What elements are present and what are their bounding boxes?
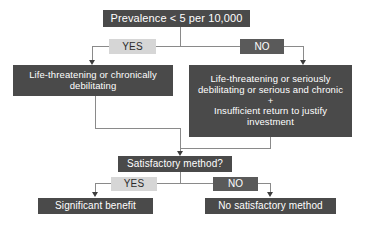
label-yes-bottom-text: YES [124,178,144,190]
connector-root-stem [180,27,181,46]
node-prevalence-label: Prevalence < 5 per 10,000 [111,12,243,25]
connector-right-criteria-drop [270,137,271,149]
node-right-criteria-line-2: debilitating or serious and chronic [198,85,343,96]
node-right-criteria-line-1: Life-threatening or seriously [210,74,330,85]
node-left-criteria-line-1: Life-threatening or chronically [29,70,157,81]
label-no-bottom-text: NO [228,178,243,190]
node-left-criteria-line-2: debilitating [70,81,117,92]
label-yes-bottom: YES [111,177,157,191]
node-right-criteria-line-5: investment [247,117,294,128]
arrowhead-yes-bottom [92,192,98,197]
node-no-satisfactory-method-label: No satisfactory method [218,200,322,212]
connector-left-criteria-run [95,128,181,129]
label-yes-top-text: YES [122,41,142,53]
arrowhead-no-bottom [267,192,273,197]
node-satisfactory-method: Satisfactory method? [118,156,232,172]
flowchart-canvas: Prevalence < 5 per 10,000 YES NO Life-th… [0,0,368,230]
label-no-top-text: NO [254,41,269,53]
label-yes-top: YES [109,39,156,54]
node-no-satisfactory-method: No satisfactory method [205,198,336,214]
label-no-top: NO [240,39,284,54]
node-left-criteria: Life-threatening or chronically debilita… [13,65,173,96]
connector-left-criteria-drop [95,96,96,128]
label-no-bottom: NO [213,177,258,191]
node-significant-benefit-label: Significant benefit [55,200,136,212]
node-prevalence: Prevalence < 5 per 10,000 [103,10,250,27]
node-right-criteria: Life-threatening or seriously debilitati… [189,65,352,137]
node-significant-benefit: Significant benefit [38,198,153,214]
connector-right-criteria-run [180,148,270,149]
node-satisfactory-method-label: Satisfactory method? [127,158,223,170]
connector-satisfactory-stem [180,172,181,183]
